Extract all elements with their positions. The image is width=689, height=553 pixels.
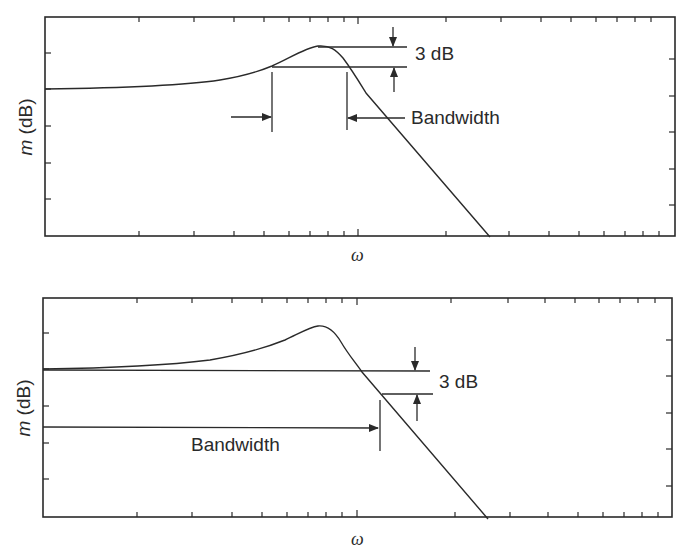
y-ticks-right (669, 59, 675, 205)
plot-frame (43, 298, 672, 517)
x-axis-label: ω (351, 529, 364, 549)
bottom-panel: 3 dB Bandwidth m (dB) ω (13, 298, 672, 549)
y-axis-label: m (dB) (13, 379, 34, 436)
x-ticks-bottom (139, 229, 659, 236)
bandwidth-label: Bandwidth (411, 107, 500, 128)
magnitude-curve (45, 46, 490, 237)
x-ticks-top (139, 17, 651, 24)
bandwidth-figure: 3 dB Bandwidth m (dB) ω (0, 0, 689, 553)
y-ticks-left (45, 53, 51, 199)
y-ticks-left (43, 333, 49, 479)
y-axis-label: m (dB) (15, 98, 36, 155)
db-label: 3 dB (415, 43, 454, 64)
plot-frame (45, 17, 675, 236)
bandwidth-arrow (43, 427, 378, 428)
x-axis-label: ω (351, 245, 364, 265)
x-ticks-top (137, 298, 655, 305)
x-ticks-bottom (137, 510, 658, 517)
low-frequency-level-line (43, 370, 430, 371)
magnitude-curve (43, 326, 488, 519)
y-ticks-right (666, 340, 672, 486)
top-panel: 3 dB Bandwidth m (dB) ω (15, 17, 675, 265)
bandwidth-label: Bandwidth (191, 434, 280, 455)
db-label: 3 dB (439, 371, 478, 392)
